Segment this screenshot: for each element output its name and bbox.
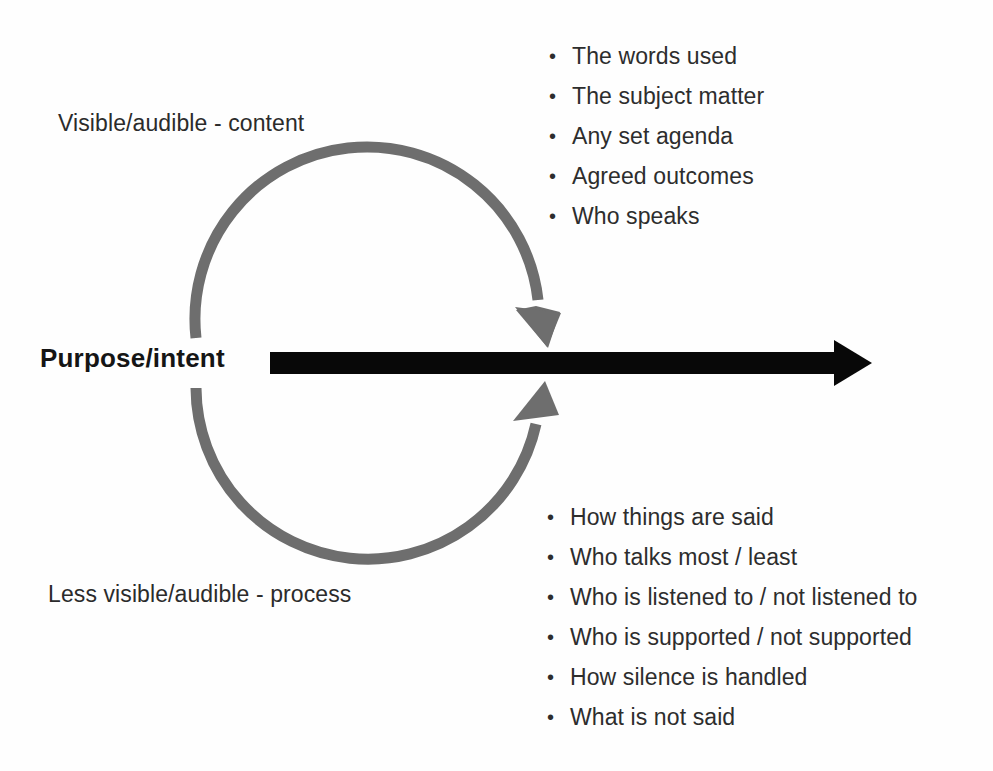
bullet-dot-icon: • xyxy=(549,76,567,116)
list-item: • How things are said xyxy=(544,497,918,537)
bullet-dot-icon: • xyxy=(549,196,567,236)
bullet-dot-icon: • xyxy=(549,36,567,76)
bullet-dot-icon: • xyxy=(547,537,565,577)
bullet-dot-icon: • xyxy=(547,657,565,697)
bullet-dot-icon: • xyxy=(547,617,565,657)
list-item-label: What is not said xyxy=(570,704,735,730)
list-item: • The words used xyxy=(546,36,764,76)
list-item: • Who speaks xyxy=(546,196,764,236)
list-item-label: How things are said xyxy=(570,504,774,530)
list-item-label: Who talks most / least xyxy=(570,544,797,570)
list-item: • Agreed outcomes xyxy=(546,156,764,196)
list-item-label: Who is supported / not supported xyxy=(570,624,912,650)
list-item: • Any set agenda xyxy=(546,116,764,156)
diagram-canvas: Visible/audible - content Less visible/a… xyxy=(0,0,993,771)
list-item: • Who talks most / least xyxy=(544,537,918,577)
list-item-label: Agreed outcomes xyxy=(572,163,754,189)
list-item-label: How silence is handled xyxy=(570,664,807,690)
list-item: • Who is listened to / not listened to xyxy=(544,577,918,617)
list-item: • The subject matter xyxy=(546,76,764,116)
bullet-dot-icon: • xyxy=(547,697,565,737)
list-item-label: Who speaks xyxy=(572,203,700,229)
list-item: • Who is supported / not supported xyxy=(544,617,918,657)
list-item-label: Any set agenda xyxy=(572,123,733,149)
list-item: • What is not said xyxy=(544,697,918,737)
bullet-dot-icon: • xyxy=(547,497,565,537)
list-item: • How silence is handled xyxy=(544,657,918,697)
bullet-dot-icon: • xyxy=(547,577,565,617)
purpose-intent-arrow xyxy=(270,340,872,386)
upper-cycle-arc xyxy=(195,147,561,348)
label-less-visible-audible-process: Less visible/audible - process xyxy=(48,580,351,608)
list-item-label: The words used xyxy=(572,43,737,69)
label-purpose-intent: Purpose/intent xyxy=(40,343,225,374)
list-item-label: Who is listened to / not listened to xyxy=(570,584,918,610)
process-bullet-list: • How things are said • Who talks most /… xyxy=(544,497,918,737)
bullet-dot-icon: • xyxy=(549,116,567,156)
content-bullet-list: • The words used • The subject matter • … xyxy=(546,36,764,236)
lower-cycle-arc xyxy=(196,381,559,559)
bullet-dot-icon: • xyxy=(549,156,567,196)
list-item-label: The subject matter xyxy=(572,83,764,109)
label-visible-audible-content: Visible/audible - content xyxy=(58,109,304,137)
